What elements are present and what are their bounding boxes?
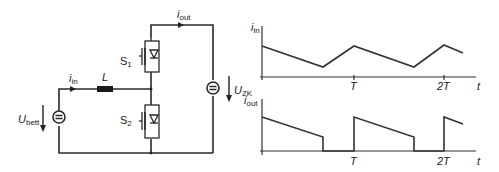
- dc-link-source-icon: [207, 82, 219, 94]
- inductor-icon: [97, 86, 113, 92]
- junction-node: [150, 88, 153, 91]
- waveform-i-out: iout T 2T t: [244, 94, 481, 167]
- junction-node-bottom: [150, 152, 153, 155]
- current-arrow-out-icon: [178, 22, 184, 28]
- i-out-trace: [262, 117, 463, 151]
- label-u-bett: Ubett: [18, 113, 40, 127]
- bottom-tick-T: T: [350, 155, 358, 167]
- switch-s2-icon: [139, 105, 159, 138]
- switch-s1-icon: [139, 38, 159, 72]
- battery-source-icon: [53, 111, 65, 123]
- boost-converter-diagram: iin L iout S1 S2 Ubett UZK iin T 2T t io…: [0, 0, 499, 172]
- current-arrow-in-icon: [70, 86, 76, 92]
- top-tick-2T: 2T: [436, 80, 451, 92]
- top-xlabel: t: [477, 80, 481, 92]
- circuit: iin L iout S1 S2 Ubett UZK: [18, 8, 253, 154]
- label-i-in: iin: [69, 72, 78, 86]
- i-in-trace: [262, 45, 463, 67]
- top-ylabel: iin: [251, 21, 260, 35]
- voltage-arrow-zk-icon: [226, 76, 232, 102]
- bottom-xlabel: t: [477, 155, 481, 167]
- label-s1: S1: [120, 55, 132, 69]
- wire-battery-bottom: [59, 126, 213, 153]
- label-i-out: iout: [177, 8, 191, 22]
- waveform-i-in: iin T 2T t: [251, 21, 481, 92]
- voltage-arrow-bett-icon: [40, 105, 46, 132]
- bottom-tick-2T: 2T: [436, 155, 451, 167]
- label-inductor: L: [102, 71, 108, 83]
- wire-battery-top: [59, 89, 97, 116]
- wire-top-rail: [151, 25, 213, 80]
- label-s2: S2: [120, 114, 132, 128]
- top-tick-T: T: [350, 80, 358, 92]
